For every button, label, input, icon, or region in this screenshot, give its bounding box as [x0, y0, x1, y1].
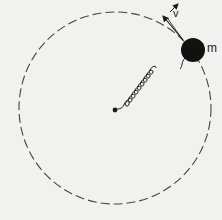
orbit-diagram — [0, 0, 222, 220]
diagram-canvas: m v — [0, 0, 222, 220]
mass-label: m — [207, 42, 217, 54]
velocity-label: v — [173, 8, 179, 19]
spring — [115, 58, 185, 110]
mass-ball — [181, 38, 205, 62]
